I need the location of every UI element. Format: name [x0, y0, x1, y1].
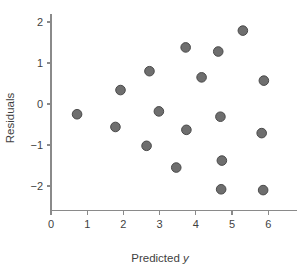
scatter-point [258, 185, 268, 195]
scatter-point [216, 184, 226, 194]
scatter-point [111, 122, 121, 132]
scatter-point [142, 141, 152, 151]
data-points-group [72, 26, 268, 195]
x-axis-tick-label: 6 [265, 218, 271, 230]
scatter-point [216, 112, 226, 122]
x-axis-tick-label: 4 [193, 218, 199, 230]
y-axis-tick-label: 2 [37, 16, 43, 28]
x-axis-title-variable: y [182, 252, 190, 264]
scatter-point [217, 156, 227, 166]
x-axis-tick-label: 2 [120, 218, 126, 230]
x-axis-tick-label: 0 [48, 218, 54, 230]
scatter-point [257, 128, 267, 138]
scatter-point [116, 85, 126, 95]
y-axis-tick-label: −1 [30, 139, 43, 151]
scatter-point [213, 47, 223, 57]
scatter-point [171, 163, 181, 173]
scatter-plot-canvas: 0123456−2−1012 Predicted y Residuals [0, 0, 305, 270]
scatter-point [154, 107, 164, 117]
scatter-point [145, 66, 155, 76]
y-axis-tick-label: 0 [37, 98, 43, 110]
scatter-point [197, 73, 207, 83]
scatter-point [72, 109, 82, 119]
scatter-point [181, 43, 191, 53]
y-axis-title: Residuals [4, 93, 16, 144]
y-axis-tick-label: 1 [37, 57, 43, 69]
x-axis-tick-label: 3 [157, 218, 163, 230]
axes-group [51, 14, 297, 211]
x-axis-title-text: Predicted [131, 252, 183, 264]
axis-tick-labels-group: 0123456−2−1012 [30, 16, 271, 230]
scatter-point [259, 76, 269, 86]
y-axis-tick-label: −2 [30, 180, 43, 192]
scatter-point [182, 125, 192, 135]
x-axis-tick-label: 5 [229, 218, 235, 230]
x-axis-tick-label: 1 [84, 218, 90, 230]
residual-scatter-plot-figure: 0123456−2−1012 Predicted y Residuals [0, 0, 305, 270]
x-axis-title: Predicted y [131, 252, 190, 264]
scatter-point [238, 26, 248, 36]
